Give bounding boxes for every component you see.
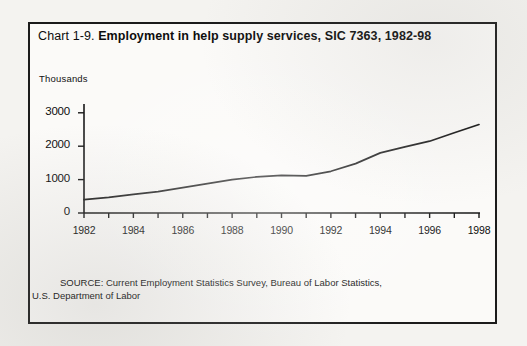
- x-axis-tick-label: 1984: [113, 224, 153, 236]
- x-axis-tick-label: 1992: [311, 224, 351, 236]
- source-note: SOURCE: Current Employment Statistics Su…: [32, 276, 482, 302]
- x-axis-tick-label: 1986: [163, 224, 203, 236]
- x-axis-tick-label: 1982: [64, 224, 104, 236]
- chart-title-text: Employment in help supply services, SIC …: [98, 29, 431, 43]
- scanned-page: Chart 1-9. Employment in help supply ser…: [0, 0, 527, 346]
- x-axis-tick-label: 1994: [360, 224, 400, 236]
- y-axis-tick-label: 1000: [28, 172, 70, 184]
- page-title: Chart 1-9. Employment in help supply ser…: [38, 29, 478, 44]
- x-axis-tick-label: 1990: [262, 224, 302, 236]
- x-axis-tick-label: 1988: [212, 224, 252, 236]
- source-line-2: U.S. Department of Labor: [32, 289, 482, 302]
- source-line-1: SOURCE: Current Employment Statistics Su…: [32, 276, 482, 289]
- y-axis-tick-label: 0: [28, 205, 70, 217]
- x-axis-tick-label: 1998: [459, 224, 499, 236]
- y-axis-tick-label: 3000: [28, 105, 70, 117]
- chart-number-label: Chart 1-9.: [38, 29, 95, 43]
- y-axis-tick-label: 2000: [28, 138, 70, 150]
- y-axis-title: Thousands: [39, 73, 88, 84]
- x-axis-tick-label: 1996: [410, 224, 450, 236]
